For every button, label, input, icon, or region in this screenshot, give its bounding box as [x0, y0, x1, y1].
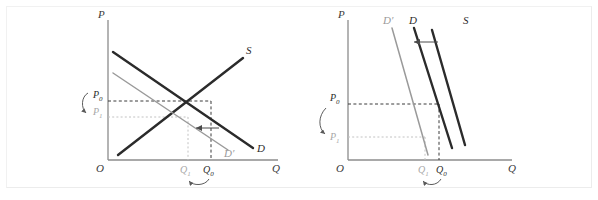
left-quantity-change-arrow: [189, 179, 209, 185]
right-supply-label: S: [463, 14, 469, 26]
right-demand-curve: [414, 28, 452, 148]
left-demand-label: D: [256, 142, 265, 154]
right-demand-shifted-curve: [392, 28, 428, 155]
right-p1-label: P1: [329, 131, 340, 145]
right-q1-label: Q1: [418, 164, 429, 178]
figure-root: P Q O S D D′ P0 P1 Q1: [0, 0, 598, 200]
panel-left: P Q O S D D′ P0 P1 Q1: [82, 8, 280, 185]
left-supply-curve: [118, 58, 243, 155]
left-demand-shifted-curve: [113, 73, 228, 150]
right-price-axis-label: P: [337, 8, 345, 20]
left-supply-label: S: [246, 44, 252, 56]
panel-right: P Q O S D D′ P0 P1 Q1: [320, 8, 516, 185]
right-supply-curve: [432, 30, 465, 145]
left-price-change-arrow: [82, 93, 88, 113]
left-q0-label: Q0: [203, 164, 214, 178]
left-demand-shifted-label: D′: [223, 147, 235, 159]
left-quantity-axis-label: Q: [272, 162, 280, 174]
right-quantity-axis-label: Q: [508, 162, 516, 174]
right-origin-label: O: [336, 162, 344, 174]
right-demand-label: D: [408, 14, 417, 26]
left-p0-label: P0: [92, 89, 103, 103]
left-p1-label: P1: [92, 106, 103, 120]
right-price-change-arrow: [320, 108, 326, 134]
diagram-canvas: P Q O S D D′ P0 P1 Q1: [0, 0, 598, 200]
left-price-axis-label: P: [97, 8, 105, 20]
right-demand-shifted-label: D′: [382, 14, 394, 26]
left-q1-label: Q1: [180, 164, 191, 178]
right-p0-label: P0: [329, 92, 340, 106]
right-q0-label: Q0: [436, 164, 447, 178]
right-quantity-change-arrow: [423, 179, 441, 185]
left-origin-label: O: [96, 162, 104, 174]
